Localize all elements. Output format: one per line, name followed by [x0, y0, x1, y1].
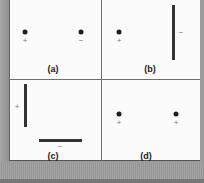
panel-label-b: (b): [144, 64, 156, 74]
point-charge-dot: [117, 30, 122, 35]
positive-sign: +: [15, 103, 20, 111]
frame-bottom-shadow: [0, 179, 204, 183]
panel-label-d: (d): [140, 151, 152, 161]
positive-sign: +: [174, 119, 179, 127]
point-charge-dot: [174, 112, 179, 117]
frame-left-edge: [0, 0, 9, 183]
panel-label-c: (c): [48, 151, 59, 161]
positive-sign: +: [23, 37, 28, 45]
point-charge-dot: [117, 112, 122, 117]
negative-sign: −: [79, 37, 84, 45]
negative-sign: −: [179, 29, 184, 37]
horizontal-divider: [9, 79, 200, 80]
positive-sign: +: [117, 37, 122, 45]
point-charge-dot: [23, 30, 28, 35]
panel-label-a: (a): [48, 64, 59, 74]
charged-rod-vertical: [172, 5, 175, 60]
charged-rod-vertical: [24, 84, 27, 127]
vertical-divider: [101, 0, 102, 161]
frame-right-edge: [200, 0, 204, 183]
point-charge-dot: [79, 30, 84, 35]
positive-sign: +: [117, 119, 122, 127]
negative-sign: −: [58, 143, 63, 151]
